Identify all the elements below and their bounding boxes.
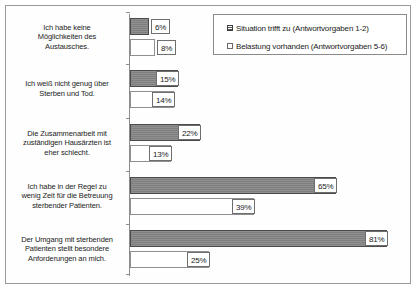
data-label: 65% [314, 178, 337, 193]
category-label-line: wenig Zeit für die Betreuung [8, 191, 126, 201]
category-axis-labels: Ich habe keineMöglichkeiten desAustausch… [6, 14, 126, 276]
data-label: 39% [232, 199, 255, 214]
category-label-line: Die Zusammenarbeit mit [8, 129, 126, 139]
data-label: 22% [178, 125, 201, 140]
axis-tick [126, 224, 130, 225]
bar-belastung[interactable] [130, 39, 155, 56]
legend-label: Situation trifft zu (Antwortvorgaben 1-2… [236, 24, 369, 33]
category-label-line: Ich habe in der Regel zu [8, 182, 126, 192]
category-label-line: Patienten stellt besondere [8, 244, 126, 254]
legend-label: Belastung vorhanden (Antwortvorgaben 5-6… [236, 42, 387, 51]
data-label: 14% [152, 92, 175, 107]
data-label: 6% [151, 19, 170, 34]
bar-group: 65%39% [129, 177, 407, 215]
chart-legend: Situation trifft zu (Antwortvorgaben 1-2… [213, 14, 407, 55]
category-label-line: sterbender Patienten. [8, 201, 126, 211]
category-label-line: Ich habe keine [8, 23, 126, 33]
bar-row[interactable]: 14% [130, 91, 408, 108]
bar-group: 15%14% [129, 70, 407, 108]
legend-entry[interactable]: Belastung vorhanden (Antwortvorgaben 5-6… [227, 41, 387, 53]
data-label: 15% [156, 71, 179, 86]
data-label: 81% [365, 231, 388, 246]
bar-group: 22%13% [129, 124, 407, 162]
bar-row[interactable]: 81% [130, 230, 408, 247]
category-label: Ich habe keineMöglichkeiten desAustausch… [8, 23, 126, 52]
bar-situation[interactable] [130, 18, 149, 35]
category-label-line: Ich weiß nicht genug über [8, 79, 126, 89]
category-label: Der Umgang mit sterbendenPatienten stell… [8, 235, 126, 264]
bar-row[interactable]: 39% [130, 198, 408, 215]
axis-tick [126, 118, 130, 119]
axis-tick [126, 171, 130, 172]
data-label: 8% [157, 40, 176, 55]
data-label: 25% [187, 252, 210, 267]
category-label-line: Möglichkeiten des [8, 32, 126, 42]
category-label-line: Sterben und Tod. [8, 89, 126, 99]
category-label: Ich weiß nicht genug überSterben und Tod… [8, 79, 126, 98]
bar-row[interactable]: 15% [130, 70, 408, 87]
bar-row[interactable]: 13% [130, 145, 408, 162]
bar-row[interactable]: 22% [130, 124, 408, 141]
category-label: Die Zusammenarbeit mitzuständigen Hausär… [8, 129, 126, 158]
empty-white-square-icon [227, 43, 233, 49]
bar-row[interactable]: 25% [130, 251, 408, 268]
filled-gray-square-icon [227, 25, 233, 31]
bar-row[interactable]: 65% [130, 177, 408, 194]
category-label-line: eher schlecht. [8, 148, 126, 158]
axis-tick [126, 64, 130, 65]
bar-group: 81%25% [129, 230, 407, 268]
data-label: 13% [149, 146, 172, 161]
legend-entry[interactable]: Situation trifft zu (Antwortvorgaben 1-2… [227, 23, 369, 35]
category-label-line: Anforderungen an mich. [8, 254, 126, 264]
category-label-line: Austausches. [8, 42, 126, 52]
category-label: Ich habe in der Regel zuwenig Zeit für d… [8, 182, 126, 211]
category-label-line: Der Umgang mit sterbenden [8, 235, 126, 245]
category-label-line: zuständigen Hausärzten ist [8, 138, 126, 148]
chart-frame: Ich habe keineMöglichkeiten desAustausch… [5, 5, 411, 284]
axis-tick [126, 274, 130, 275]
axis-tick [126, 12, 130, 13]
bar-situation[interactable] [130, 230, 387, 247]
bar-situation[interactable] [130, 177, 336, 194]
